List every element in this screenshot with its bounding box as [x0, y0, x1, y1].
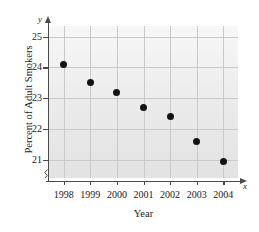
gridline-vertical: [117, 26, 118, 178]
y-axis-tick: [43, 129, 49, 130]
x-axis-tick: [64, 181, 65, 185]
y-axis-tick-label: 24: [0, 62, 42, 72]
gridline-vertical: [64, 26, 65, 178]
gridline-vertical: [144, 26, 145, 178]
gridline-vertical: [197, 26, 198, 178]
y-axis-tick: [43, 160, 49, 161]
y-axis-line: [48, 22, 49, 182]
x-axis-variable-letter: x: [243, 181, 247, 191]
data-point: [193, 138, 200, 145]
x-axis-tick: [170, 181, 171, 185]
data-point: [220, 158, 227, 165]
data-point: [140, 104, 147, 111]
data-point: [87, 79, 94, 86]
axis-break-icon: [44, 168, 53, 179]
x-axis-tick: [223, 181, 224, 185]
x-axis-tick: [197, 181, 198, 185]
x-axis-tick: [144, 181, 145, 185]
y-axis-title: Percent of Adult Smokers: [23, 25, 34, 175]
plot-area: [49, 26, 238, 178]
scatter-chart-figure: y x 2524232221 1998199920002001200220032…: [0, 0, 259, 232]
gridline-vertical: [90, 26, 91, 178]
y-axis-tick-label: 21: [0, 155, 42, 165]
gridline-vertical: [223, 26, 224, 178]
y-axis-tick-labels: 2524232221: [0, 0, 42, 232]
data-point: [60, 61, 67, 68]
x-axis-title: Year: [49, 208, 238, 219]
y-axis-tick-label: 22: [0, 124, 42, 134]
x-axis-tick: [90, 181, 91, 185]
x-axis-tick-label: 2004: [206, 190, 240, 200]
y-axis-arrow-icon: [45, 16, 51, 23]
data-point: [113, 89, 120, 96]
gridline-vertical: [170, 26, 171, 178]
y-axis-tick-label: 25: [0, 32, 42, 42]
data-point: [167, 113, 174, 120]
y-axis-tick: [43, 67, 49, 68]
y-axis-tick: [43, 37, 49, 38]
y-axis-tick: [43, 98, 49, 99]
y-axis-tick-label: 23: [0, 93, 42, 103]
x-axis-tick: [117, 181, 118, 185]
